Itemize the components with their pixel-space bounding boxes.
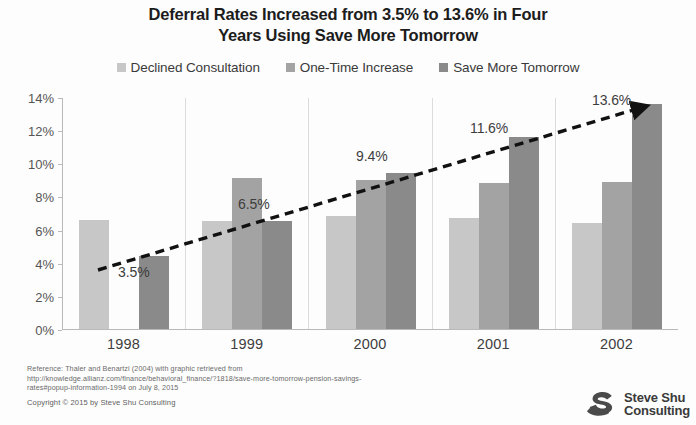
bar[interactable]	[509, 137, 539, 329]
legend-item[interactable]: Declined Consultation	[117, 60, 260, 75]
bar[interactable]	[602, 182, 632, 329]
x-axis-category-label: 1999	[185, 336, 308, 352]
legend-swatch-icon	[286, 63, 295, 72]
x-axis-category-label: 2002	[555, 336, 678, 352]
bar[interactable]	[326, 216, 356, 329]
bar[interactable]	[356, 180, 386, 329]
data-label: 13.6%	[592, 92, 631, 108]
data-label: 9.4%	[356, 148, 388, 164]
legend-swatch-icon	[439, 63, 448, 72]
x-axis-category-label: 1998	[62, 336, 185, 352]
bar[interactable]	[262, 221, 292, 329]
y-axis-tick-label: 6%	[16, 223, 62, 238]
chart-figure: Deferral Rates Increased from 3.5% to 13…	[0, 0, 696, 425]
bar[interactable]	[572, 223, 602, 329]
footnote-reference-line: Reference: Thaler and Benartzi (2004) wi…	[27, 364, 497, 374]
y-axis-tick-label: 8%	[16, 190, 62, 205]
y-axis-tick-mark	[58, 330, 62, 331]
y-axis-tick-mark	[58, 231, 62, 232]
legend-item[interactable]: One-Time Increase	[286, 60, 413, 75]
plot-area: 0%2%4%6%8%10%12%14%	[62, 98, 678, 330]
y-axis-tick-mark	[58, 264, 62, 265]
chart-title-line-1: Deferral Rates Increased from 3.5% to 13…	[149, 5, 548, 23]
bar-groups	[63, 98, 678, 329]
x-axis-category-labels: 19981999200020012002	[62, 336, 678, 352]
steve-shu-s-mark-icon	[585, 387, 619, 421]
footnote: Reference: Thaler and Benartzi (2004) wi…	[27, 364, 497, 407]
bar[interactable]	[479, 183, 509, 329]
copyright-line: Copyright © 2015 by Steve Shu Consulting	[27, 398, 497, 408]
chart-title-line-2: Years Using Save More Tomorrow	[218, 26, 478, 44]
legend-item-label: Declined Consultation	[131, 60, 260, 75]
y-axis-tick-mark	[58, 197, 62, 198]
y-axis-tick-mark	[58, 164, 62, 165]
data-label: 11.6%	[470, 120, 508, 136]
bar-group	[309, 98, 432, 329]
bar[interactable]	[632, 104, 662, 329]
y-axis-tick-label: 12%	[16, 124, 62, 139]
y-axis-tick-label: 10%	[16, 157, 62, 172]
bar[interactable]	[449, 218, 479, 329]
y-axis-tick-label: 14%	[16, 91, 62, 106]
bar[interactable]	[79, 220, 109, 329]
footnote-url-line: http://knowledge.allianz.com/finance/beh…	[27, 374, 497, 384]
x-axis-line	[62, 329, 678, 330]
bar-group	[63, 98, 186, 329]
data-label: 6.5%	[238, 196, 270, 212]
bar-group	[556, 98, 678, 329]
brand-logo: Steve Shu Consulting	[585, 387, 690, 421]
legend-swatch-icon	[117, 63, 126, 72]
y-axis-tick-mark	[58, 297, 62, 298]
bar-group	[186, 98, 309, 329]
y-axis-tick-label: 0%	[16, 323, 62, 338]
logo-text: Steve Shu Consulting	[624, 391, 690, 418]
data-label: 3.5%	[118, 264, 150, 280]
y-axis-tick-label: 4%	[16, 256, 62, 271]
y-axis-tick-mark	[58, 131, 62, 132]
chart-title: Deferral Rates Increased from 3.5% to 13…	[40, 4, 656, 46]
logo-text-line-2: Consulting	[624, 404, 690, 418]
legend-item[interactable]: Save More Tomorrow	[439, 60, 579, 75]
y-axis-tick-label: 2%	[16, 289, 62, 304]
bar[interactable]	[202, 221, 232, 329]
legend-item-label: Save More Tomorrow	[453, 60, 579, 75]
bar[interactable]	[386, 173, 416, 329]
legend-item-label: One-Time Increase	[300, 60, 413, 75]
y-axis-tick-mark	[58, 98, 62, 99]
x-axis-category-label: 2000	[308, 336, 431, 352]
footnote-url-continuation: rates#popup-information-1994 on July 8, …	[27, 383, 497, 393]
chart-legend: Declined ConsultationOne-Time IncreaseSa…	[0, 60, 696, 75]
x-axis-category-label: 2001	[432, 336, 555, 352]
